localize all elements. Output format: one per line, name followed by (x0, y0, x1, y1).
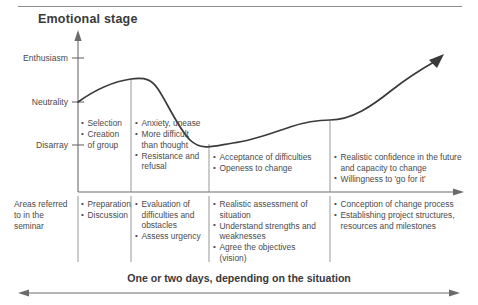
x-axis-arrowhead (453, 188, 464, 195)
list-item: Evaluation of difficulties and obstacles (135, 199, 209, 231)
duration-caption: One or two days, depending on the situat… (0, 272, 478, 284)
duration-arrow-right-head (449, 289, 460, 296)
list-item: Creation of group (81, 129, 127, 150)
list-item: Openess to change (213, 163, 325, 174)
list-item: Preparation (81, 199, 131, 210)
list-item: Resistance and refusal (135, 151, 207, 172)
list-item: Selection (81, 118, 127, 129)
list-item: Understand strengths and weaknesses (213, 221, 327, 242)
list-item: Willingness to 'go for it' (334, 174, 470, 185)
list-item: Agree the objectives (213, 242, 327, 253)
diagram-frame: Emotional stage Enthusiasm Neutrality Di… (0, 0, 478, 305)
curve-arrowhead (429, 54, 444, 68)
y-axis-arrowhead (74, 30, 81, 41)
list-item: Establishing project structures, resourc… (334, 210, 474, 231)
list-item: Realistic confidence in the future and c… (334, 152, 470, 173)
list-item: Discussion (81, 210, 131, 221)
list-item: More difficult than thought (135, 129, 207, 150)
list-item: Assess urgency (135, 231, 209, 242)
stage4-emotional-list: Realistic confidence in the future and c… (334, 152, 470, 185)
stage1-emotional-list: Selection Creation of group (81, 118, 127, 151)
stage2-areas-list: Evaluation of difficulties and obstacles… (135, 199, 209, 242)
stage1-areas-list: Preparation Discussion (81, 199, 131, 221)
list-item: Anxiety, unease (135, 118, 207, 129)
list-item: Acceptance of difficulties (213, 152, 325, 163)
duration-arrow-left-head (18, 289, 29, 296)
stage3-areas-list: Realistic assessment of situation Unders… (213, 199, 327, 265)
stage2-emotional-list: Anxiety, unease More difficult than thou… (135, 118, 207, 172)
list-item: Conception of change process (334, 199, 474, 210)
list-item: Realistic assessment of situation (213, 199, 327, 220)
stage3-emotional-list: Acceptance of difficulties Openess to ch… (213, 152, 325, 174)
list-item: (vision) (213, 253, 327, 264)
stage4-areas-list: Conception of change process Establishin… (334, 199, 474, 232)
